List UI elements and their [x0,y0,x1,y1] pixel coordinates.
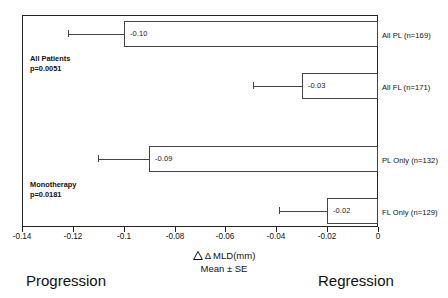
bar-value-label-all-pl: -0.10 [130,29,148,38]
error-bar-line-fl-only [279,211,327,212]
category-label-fl-only: FL Only (n=129) [382,208,438,217]
x-tick-label-5: -0.04 [267,232,286,241]
bar-value-label-pl-only: -0.09 [155,154,173,163]
x-axis-title-row: Δ MLD(mm) [0,250,448,261]
error-bar-cap-all-fl [253,82,254,89]
annotation-monotherapy-pvalue: p=0.0181 [30,190,76,200]
annotation-all-patients-pvalue: p=0.0051 [30,64,70,74]
bar-pl-only [149,146,378,172]
error-bar-cap-fl-only [279,207,280,214]
x-tick-label-1: -0.12 [64,232,83,241]
x-tick-label-6: -0.02 [318,232,337,241]
bar-all-pl [124,21,378,47]
category-label-all-fl: All FL (n=171) [382,83,430,92]
bar-value-label-all-fl: -0.03 [308,81,326,90]
annotation-all-patients: All Patients p=0.0051 [30,54,70,74]
chart-figure: -0.10 All PL (n=169) -0.03 All FL (n=171… [0,0,448,298]
error-bar-line-all-pl [68,34,124,35]
x-tick-label-2: -0.1 [117,232,131,241]
error-bar-line-pl-only [98,159,149,160]
error-bar-line-all-fl [253,86,302,87]
annotation-all-patients-title: All Patients [30,54,70,64]
x-tick-label-3: -0.08 [166,232,185,241]
category-label-all-pl: All PL (n=169) [382,31,431,40]
delta-triangle-icon [193,251,203,260]
direction-label-progression: Progression [26,272,106,289]
annotation-monotherapy-title: Monotherapy [30,180,76,190]
error-bar-cap-pl-only [98,155,99,162]
x-tick-label-0: -0.14 [13,232,32,241]
direction-label-regression: Regression [318,272,394,289]
annotation-monotherapy: Monotherapy p=0.0181 [30,180,76,200]
error-bar-cap-all-pl [68,30,69,37]
x-tick-label-4: -0.06 [216,232,235,241]
x-axis-title-text: Δ MLD(mm) [205,250,256,261]
x-tick-label-7: 0 [376,232,381,241]
category-label-pl-only: PL Only (n=132) [382,156,438,165]
bar-value-label-fl-only: -0.02 [333,206,351,215]
